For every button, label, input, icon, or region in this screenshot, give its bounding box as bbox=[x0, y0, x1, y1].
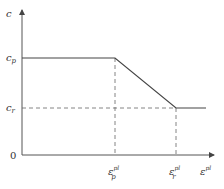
cr-label: cr bbox=[6, 102, 16, 115]
epsp-label: εplp bbox=[108, 164, 119, 181]
cp-label: cp bbox=[6, 52, 17, 65]
origin-label: 0 bbox=[10, 150, 16, 161]
x-axis-label: εpl bbox=[200, 164, 211, 177]
epsr-label: εplr bbox=[169, 164, 180, 181]
y-axis-label: c bbox=[6, 8, 12, 19]
softening-curve bbox=[22, 58, 206, 108]
diagram-canvas: c cp cr 0 εplp εplr εpl bbox=[0, 0, 224, 189]
